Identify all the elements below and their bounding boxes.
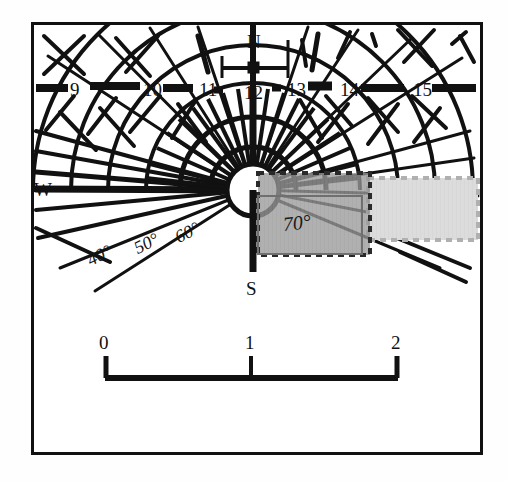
scale-bar <box>105 356 398 378</box>
overlay-light-selection[interactable] <box>368 178 478 240</box>
hour-label-11: 11 <box>199 80 217 99</box>
overlay-dark-selection[interactable] <box>258 173 370 255</box>
diagram-graphics <box>0 0 508 481</box>
scale-label-0: 0 <box>99 333 109 352</box>
cardinal-label-west: W <box>34 180 52 199</box>
hour-label-12: 12 <box>244 83 263 102</box>
altitude-label-70: 70° <box>282 210 312 236</box>
cardinal-label-south: S <box>246 279 257 298</box>
hour-label-13: 13 <box>287 80 306 99</box>
hour-label-10: 10 <box>143 80 162 99</box>
figure-canvas: N W S 9 10 11 12 13 14 15 40° 50° 60° 70… <box>0 0 508 481</box>
scale-label-1: 1 <box>245 333 255 352</box>
hour-label-14: 14 <box>340 80 359 99</box>
cardinal-label-north: N <box>247 32 261 51</box>
hour-label-15: 15 <box>413 80 432 99</box>
diagram-linework <box>33 0 478 378</box>
scale-label-2: 2 <box>391 333 401 352</box>
hour-label-9: 9 <box>70 80 80 99</box>
